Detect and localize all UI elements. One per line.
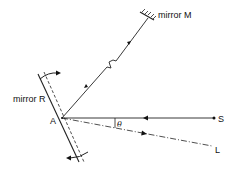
arrow-toward-m-icon <box>84 84 88 88</box>
rotation-arrow-bottom-icon <box>66 152 88 161</box>
angle-theta-label: θ <box>117 120 122 129</box>
arrow-toward-a-icon <box>143 116 148 121</box>
rotation-arrow-top-icon <box>40 71 61 80</box>
source-s-point <box>213 117 216 120</box>
output-l-label: L <box>215 145 220 155</box>
beam-a-m <box>62 18 148 118</box>
mirror-m-label: mirror M <box>158 10 192 20</box>
arrow-toward-l-icon <box>141 131 147 136</box>
mirror-r-label: mirror R <box>13 94 46 104</box>
point-a <box>61 117 63 119</box>
arrow-toward-a-icon <box>127 41 131 45</box>
optics-diagram: mirror M S L θ mirror R A <box>0 0 236 178</box>
source-s-label: S <box>218 114 224 124</box>
beam-a-l <box>62 118 212 146</box>
point-a-label: A <box>50 116 56 126</box>
